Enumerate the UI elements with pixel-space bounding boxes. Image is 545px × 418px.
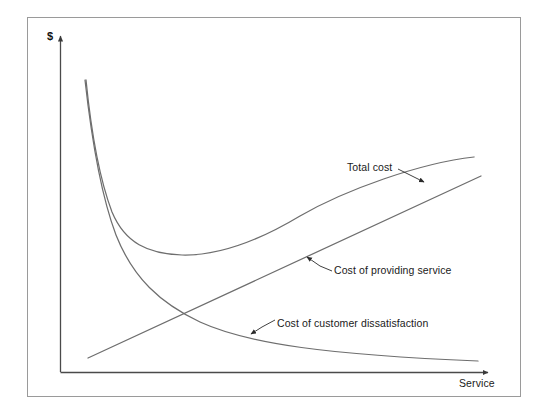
y-axis-label: $	[47, 30, 53, 42]
leader-cost-of-providing-service	[307, 257, 332, 271]
x-axis-label: Service	[459, 377, 495, 389]
annotation-total-cost: Total cost	[347, 161, 392, 173]
series-total-cost	[86, 80, 474, 255]
chart-canvas	[0, 0, 545, 418]
leader-total-cost	[398, 169, 424, 182]
leader-cost-of-customer-dissatisfaction	[251, 320, 275, 334]
annotation-cost-of-providing-service: Cost of providing service	[334, 264, 451, 276]
annotation-cost-of-customer-dissatisfaction: Cost of customer dissatisfaction	[277, 317, 428, 329]
figure-container: $ Total cost Cost of providing service C…	[0, 0, 545, 418]
